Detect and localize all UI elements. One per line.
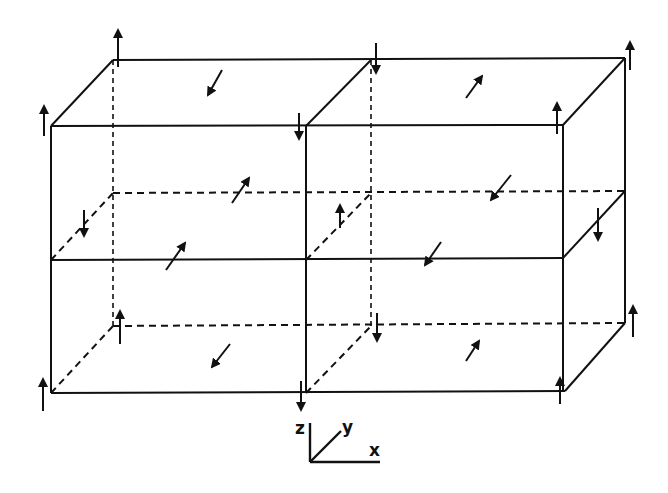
right-bottom-depth-edge bbox=[565, 323, 625, 391]
middle-top-depth-edge bbox=[306, 60, 371, 126]
spin-diagonal-arrow-icon bbox=[491, 175, 511, 200]
right-top-depth-edge bbox=[563, 58, 625, 125]
spin-diagonal-arrow-icon bbox=[466, 341, 479, 361]
middle-middle-depth-edge bbox=[306, 193, 371, 260]
coordinate-axes: z y x bbox=[295, 417, 380, 462]
spin-diagonal-arrow-icon bbox=[466, 76, 482, 98]
hidden-edges bbox=[51, 60, 625, 393]
visible-edges bbox=[51, 58, 625, 393]
back-bottom-horizontal-edge bbox=[113, 323, 625, 326]
y-axis-label: y bbox=[342, 417, 353, 437]
spin-diagonal-arrow-icon bbox=[166, 243, 185, 270]
front-top-edge bbox=[51, 125, 563, 126]
spin-diagonal-arrow-icon bbox=[425, 242, 441, 265]
y-axis bbox=[310, 431, 341, 462]
left-top-depth-edge bbox=[51, 60, 113, 126]
spin-lattice-diagram: z y x bbox=[0, 0, 668, 493]
spin-diagonal-arrow-icon bbox=[212, 344, 230, 367]
left-middle-depth-edge bbox=[51, 193, 113, 260]
middle-bottom-depth-edge bbox=[306, 326, 371, 393]
corner-spins bbox=[43, 30, 633, 411]
x-axis-label: x bbox=[369, 440, 380, 460]
left-bottom-depth-edge bbox=[51, 326, 113, 393]
z-axis-label: z bbox=[295, 418, 305, 438]
spin-diagonal-arrow-icon bbox=[208, 70, 222, 95]
back-top-edge bbox=[113, 58, 625, 60]
right-middle-depth-edge bbox=[563, 191, 625, 258]
face-spins bbox=[166, 70, 511, 367]
spin-diagonal-arrow-icon bbox=[232, 178, 249, 203]
back-middle-horizontal-edge bbox=[113, 191, 625, 193]
front-bottom-edge bbox=[51, 391, 565, 393]
